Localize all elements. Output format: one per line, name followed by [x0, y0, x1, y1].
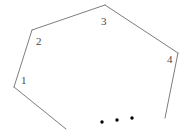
vertex-label-4: 4: [167, 54, 173, 65]
polygon-figure-canvas: 1234: [0, 0, 193, 132]
polygon-edges-group: [14, 5, 178, 129]
polygon-edge-edge-left-tail: [14, 87, 66, 129]
vertex-label-3: 3: [101, 16, 107, 27]
ellipsis-dot-2: [115, 118, 118, 121]
vertex-label-2: 2: [36, 36, 42, 47]
ellipsis-dots-group: [100, 116, 133, 123]
polygon-figure-svg: [0, 0, 193, 132]
polygon-edge-edge-3-4: [105, 5, 178, 53]
vertex-label-1: 1: [21, 75, 27, 86]
ellipsis-dot-1: [100, 120, 103, 123]
polygon-edge-edge-2-3: [32, 5, 105, 30]
ellipsis-dot-3: [130, 116, 133, 119]
